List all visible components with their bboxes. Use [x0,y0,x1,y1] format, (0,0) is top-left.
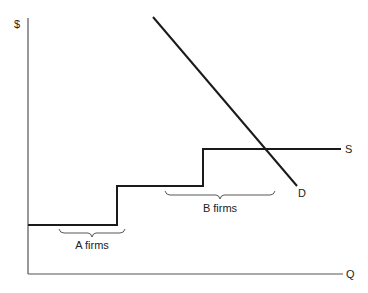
a-firms-label: A firms [75,239,109,251]
demand-label: D [298,187,306,199]
supply-curve [28,149,341,225]
supply-demand-diagram: $ Q S D A firms B firms [0,0,368,293]
x-axis-label: Q [346,268,355,280]
a-firms-brace [59,229,125,237]
y-axis-label: $ [14,18,20,30]
b-firms-label: B firms [203,202,238,214]
b-firms-brace [165,191,275,199]
supply-label: S [345,143,352,155]
demand-curve [153,17,297,186]
